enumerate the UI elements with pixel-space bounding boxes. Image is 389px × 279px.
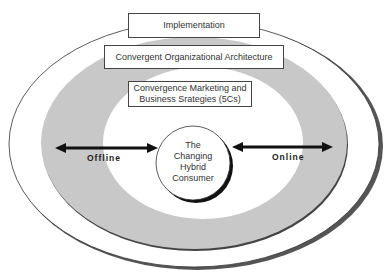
architecture-box: Convergent Organizational Architecture <box>104 45 284 69</box>
center-line3: Hybrid <box>158 162 228 173</box>
strategies-label-line2: Business Srategies (5Cs) <box>139 94 241 105</box>
offline-label: Offline <box>87 153 121 163</box>
strategies-label-line1: Convergence Marketing and <box>133 83 246 94</box>
strategies-box: Convergence Marketing and Business Srate… <box>128 81 252 107</box>
center-line2: Changing <box>158 151 228 162</box>
center-line1: The <box>158 140 228 151</box>
center-label: The Changing Hybrid Consumer <box>158 140 228 184</box>
online-label: Online <box>272 152 304 162</box>
implementation-label: Implementation <box>163 20 225 31</box>
architecture-label: Convergent Organizational Architecture <box>115 52 272 63</box>
implementation-box: Implementation <box>128 13 260 38</box>
center-line4: Consumer <box>158 173 228 184</box>
